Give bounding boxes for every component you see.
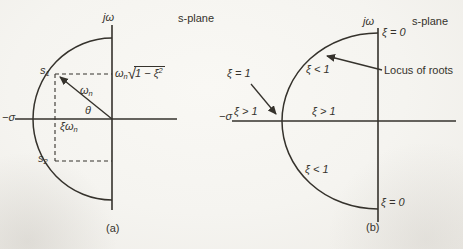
right-s-plane-diagram xyxy=(232,28,456,222)
locus-pointer-arrow xyxy=(327,56,382,70)
left-caption: (a) xyxy=(106,222,119,234)
xi-omega-n-label: ξωn xyxy=(60,120,78,132)
xi-lt-one-top-label: ξ < 1 xyxy=(306,63,330,75)
scanned-figure-page: jω s-plane −σ s1 ωn√1 − ξ2 ωn θ ξωn s2 (… xyxy=(0,0,463,249)
right-real-axis-label: −σ xyxy=(219,110,232,122)
theta-angle-label: θ xyxy=(85,104,91,116)
left-real-axis-label: −σ xyxy=(2,111,15,123)
point-s1-label: s1 xyxy=(40,64,50,76)
locus-of-roots-label: Locus of roots xyxy=(384,64,453,76)
xi-gt-one-left-label: ξ > 1 xyxy=(234,105,258,117)
radicand: 1 − ξ2 xyxy=(134,66,165,79)
xi-zero-bottom-label: ξ = 0 xyxy=(381,196,405,208)
left-plane-label: s-plane xyxy=(178,12,214,24)
imag-part-label: ωn√1 − ξ2 xyxy=(115,67,165,79)
right-caption: (b) xyxy=(366,221,379,233)
xi-gt-one-mid-label: ξ > 1 xyxy=(312,105,336,117)
omega-n-label: ωn xyxy=(80,84,93,96)
right-imag-axis-label: jω xyxy=(363,15,374,27)
right-plane-label: s-plane xyxy=(412,15,448,27)
xi-eq-one-label: ξ = 1 xyxy=(227,67,251,79)
xi-zero-top-label: ξ = 0 xyxy=(382,26,406,38)
xi-lt-one-bottom-label: ξ < 1 xyxy=(305,163,329,175)
point-s2-label: s2 xyxy=(38,152,48,164)
left-imag-axis-label: jω xyxy=(103,11,114,23)
left-s-plane-diagram xyxy=(15,25,177,210)
